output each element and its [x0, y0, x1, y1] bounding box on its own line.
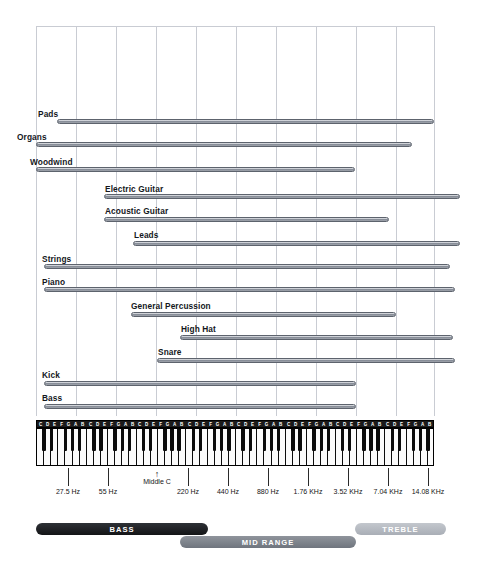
black-key — [177, 429, 180, 451]
black-key — [121, 429, 124, 451]
note-letter: G — [214, 421, 220, 427]
note-letter: B — [278, 421, 284, 427]
black-key — [50, 429, 53, 451]
black-key — [398, 429, 401, 451]
note-letter: A — [122, 421, 128, 427]
range-bar-label: General Percussion — [131, 301, 211, 311]
range-bar-label: Organs — [17, 132, 47, 142]
frequency-tick-label: 27.5 Hz — [56, 488, 80, 495]
note-letter: F — [158, 421, 164, 427]
black-key — [263, 429, 266, 451]
black-key — [92, 429, 95, 451]
octave-note-letters: CDEFGAB — [285, 421, 335, 427]
note-letter: C — [37, 421, 43, 427]
black-key — [78, 429, 81, 451]
note-letter: G — [313, 421, 319, 427]
note-letter: B — [129, 421, 135, 427]
middle-c-marker: ↑ Middle C — [143, 470, 171, 485]
frequency-tick-label: 1.76 KHz — [294, 488, 323, 495]
black-key — [163, 429, 166, 451]
note-letter: G — [363, 421, 369, 427]
note-letter: D — [242, 421, 248, 427]
range-bar-label: Woodwind — [30, 157, 73, 167]
note-letter: D — [292, 421, 298, 427]
black-key — [227, 429, 230, 451]
range-bar-label: Electric Guitar — [105, 184, 163, 194]
range-bar — [44, 264, 450, 269]
black-key — [298, 429, 301, 451]
note-letter: F — [108, 421, 114, 427]
black-key — [426, 429, 429, 451]
range-bar-label: High Hat — [181, 324, 216, 334]
range-bar-label: Strings — [42, 254, 71, 264]
note-letter: B — [327, 421, 333, 427]
note-letter: G — [115, 421, 121, 427]
black-key — [142, 429, 145, 451]
range-bar — [104, 194, 460, 199]
range-pill: BASS — [36, 523, 208, 535]
gridline-0 — [36, 26, 37, 416]
range-bar — [57, 119, 434, 124]
axis-tick — [428, 468, 429, 486]
black-key — [270, 429, 273, 451]
range-pill: MID RANGE — [180, 536, 356, 548]
note-letter: G — [412, 421, 418, 427]
range-bar — [44, 381, 356, 386]
black-key — [42, 429, 45, 451]
note-letter: C — [334, 421, 340, 427]
range-bar-label: Leads — [134, 230, 158, 240]
note-letter: A — [172, 421, 178, 427]
frequency-tick-label: 7.04 KHz — [374, 488, 403, 495]
axis-tick — [388, 468, 389, 486]
black-key — [348, 429, 351, 451]
range-bar — [180, 335, 453, 340]
note-letter: E — [398, 421, 404, 427]
black-key — [99, 429, 102, 451]
octave — [186, 429, 236, 465]
range-bar-label: Acoustic Guitar — [105, 206, 168, 216]
axis-tick — [68, 468, 69, 486]
black-key — [320, 429, 323, 451]
octave — [137, 429, 187, 465]
black-key — [71, 429, 74, 451]
note-letter: A — [271, 421, 277, 427]
note-letter: B — [80, 421, 86, 427]
piano-keys — [36, 428, 434, 466]
note-letter: B — [179, 421, 185, 427]
octave-note-letters: CDEFGAB — [37, 421, 87, 427]
note-letter: F — [356, 421, 362, 427]
black-key — [341, 429, 344, 451]
axis-tick — [108, 468, 109, 486]
note-letter: F — [405, 421, 411, 427]
frequency-tick-label: 3.52 KHz — [334, 488, 363, 495]
frequency-tick-label: 220 Hz — [177, 488, 199, 495]
range-bar-label: Kick — [42, 370, 60, 380]
note-letter: C — [186, 421, 192, 427]
black-key — [241, 429, 244, 451]
black-key — [376, 429, 379, 451]
axis-tick — [268, 468, 269, 486]
octave — [286, 429, 336, 465]
octave — [37, 429, 87, 465]
range-bar-label: Snare — [158, 347, 182, 357]
note-letter: E — [349, 421, 355, 427]
note-letter: D — [94, 421, 100, 427]
gridline-1 — [76, 26, 77, 416]
note-letter: E — [250, 421, 256, 427]
octave — [236, 429, 286, 465]
octave — [87, 429, 137, 465]
black-key — [149, 429, 152, 451]
black-key — [220, 429, 223, 451]
note-letter: F — [59, 421, 65, 427]
octave-note-letters: CDEFGAB — [87, 421, 137, 427]
note-letter: F — [207, 421, 213, 427]
note-letter: G — [165, 421, 171, 427]
range-bar — [44, 404, 356, 409]
note-letter: A — [419, 421, 425, 427]
note-letter: A — [221, 421, 227, 427]
note-letters-strip: CDEFGABCDEFGABCDEFGABCDEFGABCDEFGABCDEFG… — [36, 420, 434, 428]
range-bar-label: Pads — [38, 109, 58, 119]
note-letter: C — [87, 421, 93, 427]
black-key — [391, 429, 394, 451]
frequency-tick-label: 440 Hz — [217, 488, 239, 495]
